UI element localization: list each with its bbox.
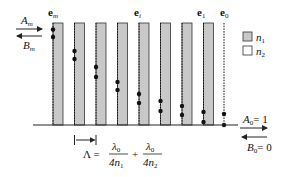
label-e1: e1: [197, 6, 206, 20]
term2-denominator: 4n2: [143, 156, 158, 170]
multilayer-diagram: Am Bm em ei e1 e0 n1 n2 A0= 1 B0= 0 Λ = …: [0, 0, 287, 177]
label-am: Am: [20, 14, 33, 28]
label-em: em: [48, 6, 58, 20]
legend-label-n2: n2: [256, 45, 266, 59]
svg-text:+: +: [132, 148, 138, 160]
legend-swatch-n1: [243, 32, 252, 41]
layer-stack: [53, 23, 214, 125]
legend-label-n1: n1: [256, 31, 266, 45]
label-bm: Bm: [23, 39, 35, 53]
term1-denominator: 4n1: [109, 156, 124, 170]
legend-swatch-n2: [243, 46, 252, 55]
term2-numerator: λ0: [145, 140, 155, 154]
label-a0: A0= 1: [242, 113, 268, 127]
period-bracket: [75, 135, 97, 145]
term1-numerator: λ0: [111, 140, 121, 154]
label-b0: B0= 0: [247, 141, 272, 155]
svg-text:Λ =: Λ =: [83, 148, 100, 160]
period-formula: Λ = λ0 4n1 + λ0 4n2: [83, 140, 162, 170]
label-e0: e0: [220, 6, 229, 20]
label-ei: ei: [134, 6, 141, 20]
